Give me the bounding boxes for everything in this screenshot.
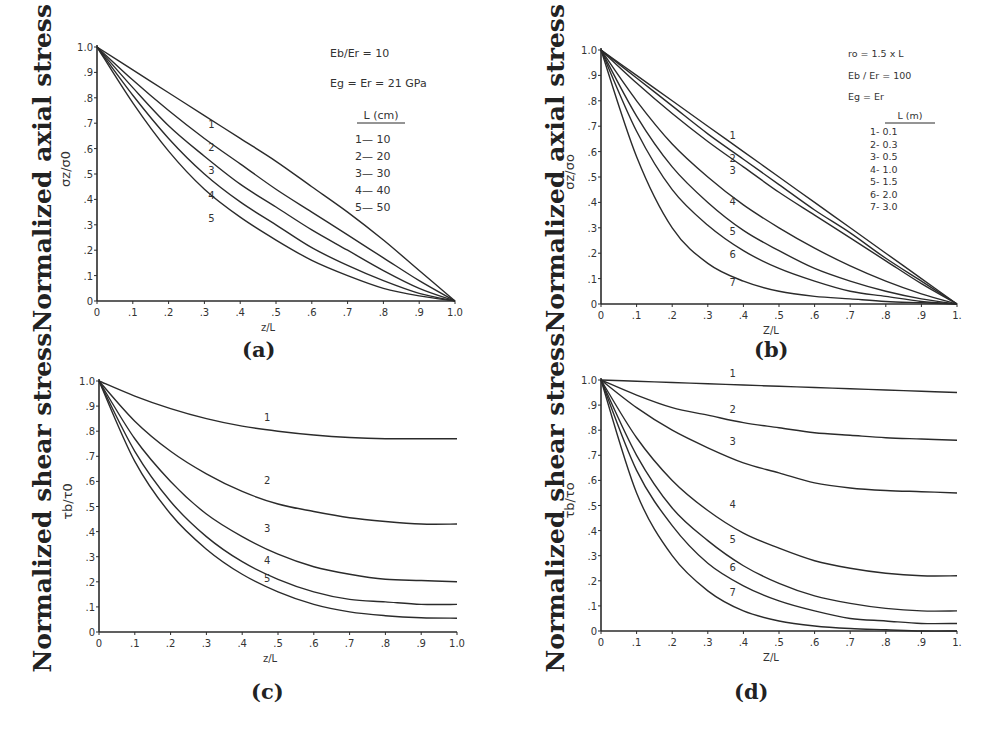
x-tick-label: .9 bbox=[416, 638, 426, 649]
y-tick-label: .4 bbox=[587, 526, 597, 537]
legend-entry: 3— 30 bbox=[355, 167, 391, 180]
x-tick-label: .7 bbox=[343, 307, 353, 318]
legend-entry: 4- 1.0 bbox=[870, 164, 898, 175]
x-tick-label: .7 bbox=[345, 638, 355, 649]
curve-label: 5 bbox=[208, 213, 214, 224]
curve-label: 6 bbox=[730, 249, 736, 260]
y-tick-label: .5 bbox=[587, 501, 597, 512]
curve-label: 2 bbox=[208, 142, 214, 153]
x-tick-label: 0 bbox=[598, 310, 604, 321]
curve-label: 5 bbox=[264, 573, 270, 584]
x-tick-label: .9 bbox=[917, 310, 927, 321]
curve-7 bbox=[601, 380, 957, 631]
x-tick-label: .3 bbox=[202, 638, 212, 649]
y-tick-label: .7 bbox=[587, 450, 597, 461]
y-tick-label: .8 bbox=[83, 93, 93, 104]
x-tick-label: .3 bbox=[703, 637, 713, 648]
x-tick-label: .6 bbox=[810, 310, 820, 321]
y-tick-label: .9 bbox=[587, 400, 597, 411]
x-tick-label: 0 bbox=[598, 637, 604, 648]
curve-label: 6 bbox=[730, 562, 736, 573]
panel-d-chart: 0.1.2.3.4.5.6.7.8.91.00.1.2.3.4.5.6.7.8.… bbox=[562, 368, 962, 663]
y-tick-label: .8 bbox=[587, 96, 597, 107]
y-tick-label: .1 bbox=[85, 602, 95, 613]
x-tick-label: .9 bbox=[917, 637, 927, 648]
x-tick-label: .6 bbox=[307, 307, 317, 318]
y-tick-label: .2 bbox=[83, 245, 93, 256]
y-tick-label: .5 bbox=[83, 169, 93, 180]
y-tick-label: .2 bbox=[587, 576, 597, 587]
curve-label: 4 bbox=[730, 499, 736, 510]
legend-entry: 6- 2.0 bbox=[870, 189, 898, 200]
y-tick-label: .7 bbox=[587, 121, 597, 132]
curve-2 bbox=[601, 380, 957, 440]
y-tick-label: .4 bbox=[587, 197, 597, 208]
curve-5 bbox=[99, 381, 457, 618]
x-tick-label: .6 bbox=[309, 638, 319, 649]
parameter-annotation: Eg = Er = 21 GPa bbox=[330, 77, 427, 90]
parameter-annotation: ro = 1.5 x L bbox=[848, 48, 904, 59]
panel-b-chart: 0.1.2.3.4.5.6.7.8.91.00.1.2.3.4.5.6.7.8.… bbox=[562, 45, 962, 336]
y-tick-label: .2 bbox=[85, 577, 95, 588]
curve-5 bbox=[601, 380, 957, 611]
curve-label: 7 bbox=[730, 587, 736, 598]
y-tick-label: 0 bbox=[591, 299, 597, 310]
x-tick-label: .3 bbox=[200, 307, 210, 318]
legend-title: L (m) bbox=[898, 110, 923, 121]
x-tick-label: .4 bbox=[237, 638, 247, 649]
y-tick-label: .4 bbox=[85, 527, 95, 538]
y-tick-label: 1.0 bbox=[77, 42, 93, 53]
x-tick-label: 0 bbox=[96, 638, 102, 649]
y-tick-label: .9 bbox=[83, 67, 93, 78]
curve-label: 3 bbox=[208, 165, 214, 176]
x-tick-label: .8 bbox=[881, 310, 891, 321]
x-axis-label: z/L bbox=[261, 322, 276, 333]
y-tick-label: 1.0 bbox=[581, 45, 597, 56]
x-axis-label: Z/L bbox=[763, 325, 779, 336]
y-tick-label: .6 bbox=[587, 475, 597, 486]
y-tick-label: .9 bbox=[85, 401, 95, 412]
curve-1 bbox=[601, 50, 957, 304]
y-tick-label: .3 bbox=[85, 552, 95, 563]
curve-1 bbox=[601, 380, 957, 393]
y-tick-label: .4 bbox=[83, 194, 93, 205]
x-tick-label: .4 bbox=[739, 637, 749, 648]
parameter-annotation: Eb/Er = 10 bbox=[330, 47, 389, 60]
x-axis-label: Z/L bbox=[763, 652, 779, 663]
curve-4 bbox=[99, 381, 457, 605]
x-tick-label: .1 bbox=[128, 307, 138, 318]
curve-label: 1 bbox=[208, 119, 214, 130]
x-tick-label: .6 bbox=[810, 637, 820, 648]
x-tick-label: .5 bbox=[271, 307, 281, 318]
panel-a-chart: 0.1.2.3.4.5.6.7.8.91.00.1.2.3.4.5.6.7.8.… bbox=[58, 42, 463, 333]
x-tick-label: .2 bbox=[166, 638, 176, 649]
y-tick-label: .3 bbox=[587, 223, 597, 234]
legend-title: L (cm) bbox=[364, 109, 399, 122]
x-tick-label: 1.0 bbox=[447, 307, 463, 318]
x-tick-label: .8 bbox=[379, 307, 389, 318]
y-tick-label: .8 bbox=[85, 426, 95, 437]
x-tick-label: .4 bbox=[739, 310, 749, 321]
legend-entry: 3- 0.5 bbox=[870, 151, 898, 162]
curve-label: 2 bbox=[730, 404, 736, 415]
legend-entry: 4— 40 bbox=[355, 184, 391, 197]
curve-6 bbox=[601, 380, 957, 624]
parameter-annotation: Eg = Er bbox=[848, 91, 884, 102]
curve-label: 3 bbox=[264, 523, 270, 534]
x-tick-label: .1 bbox=[130, 638, 140, 649]
y-tick-label: .3 bbox=[587, 551, 597, 562]
y-axis-label: τb/τ0 bbox=[60, 483, 75, 520]
legend-entry: 5— 50 bbox=[355, 201, 391, 214]
y-tick-label: .6 bbox=[587, 147, 597, 158]
y-axis-label: σz/σo bbox=[562, 154, 577, 190]
x-tick-label: .2 bbox=[164, 307, 174, 318]
x-tick-label: 1. bbox=[952, 310, 962, 321]
y-axis-label: σz/σ0 bbox=[58, 151, 73, 187]
legend-entry: 2- 0.3 bbox=[870, 139, 898, 150]
x-tick-label: .2 bbox=[667, 310, 677, 321]
x-tick-label: .8 bbox=[381, 638, 391, 649]
x-tick-label: .3 bbox=[703, 310, 713, 321]
x-tick-label: 1.0 bbox=[449, 638, 465, 649]
x-tick-label: 0 bbox=[94, 307, 100, 318]
y-tick-label: .2 bbox=[587, 248, 597, 259]
